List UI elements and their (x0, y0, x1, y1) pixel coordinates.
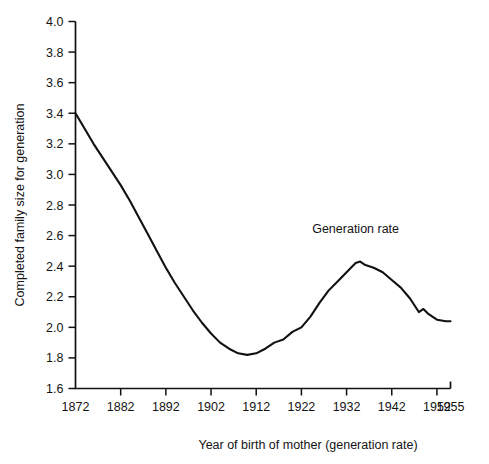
x-tick-label: 1912 (242, 400, 270, 414)
y-tick-label: 3.0 (46, 168, 63, 182)
x-tick-label: 1955 (437, 400, 465, 414)
generation-rate-line-chart: 1.61.82.02.22.42.62.83.03.23.43.63.84.0 … (0, 0, 489, 464)
x-tick-label: 1882 (107, 400, 135, 414)
y-tick-label: 2.8 (46, 199, 63, 213)
x-tick-label: 1872 (62, 400, 90, 414)
y-tick-label: 2.4 (46, 260, 63, 274)
y-tick-label: 2.0 (46, 321, 63, 335)
y-tick-label: 3.4 (46, 107, 63, 121)
chart-figure: 1.61.82.02.22.42.62.83.03.23.43.63.84.0 … (0, 0, 489, 464)
x-tick-label: 1922 (287, 400, 315, 414)
x-tick-label: 1892 (152, 400, 180, 414)
x-axis-ticks (121, 389, 437, 396)
y-tick-label: 4.0 (46, 15, 63, 29)
y-axis-ticks (69, 22, 76, 389)
y-tick-label: 2.2 (46, 290, 63, 304)
y-tick-label: 2.6 (46, 229, 63, 243)
x-tick-label: 1902 (197, 400, 225, 414)
y-tick-label: 3.8 (46, 46, 63, 60)
y-tick-label: 1.8 (46, 351, 63, 365)
y-tick-label: 3.2 (46, 137, 63, 151)
x-tick-label: 1932 (333, 400, 361, 414)
x-tick-label: 1942 (378, 400, 406, 414)
x-axis-tick-labels: 1872188218921902191219221932194219521955 (62, 400, 465, 414)
y-tick-label: 1.6 (46, 382, 63, 396)
annotation-generation-rate: Generation rate (312, 222, 399, 236)
y-axis-title: Completed family size for generation (13, 104, 27, 307)
y-axis-tick-labels: 1.61.82.02.22.42.62.83.03.23.43.63.84.0 (46, 15, 63, 396)
y-tick-label: 3.6 (46, 76, 63, 90)
x-axis-title: Year of birth of mother (generation rate… (198, 438, 417, 452)
chart-annotations: Generation rate (312, 222, 399, 236)
